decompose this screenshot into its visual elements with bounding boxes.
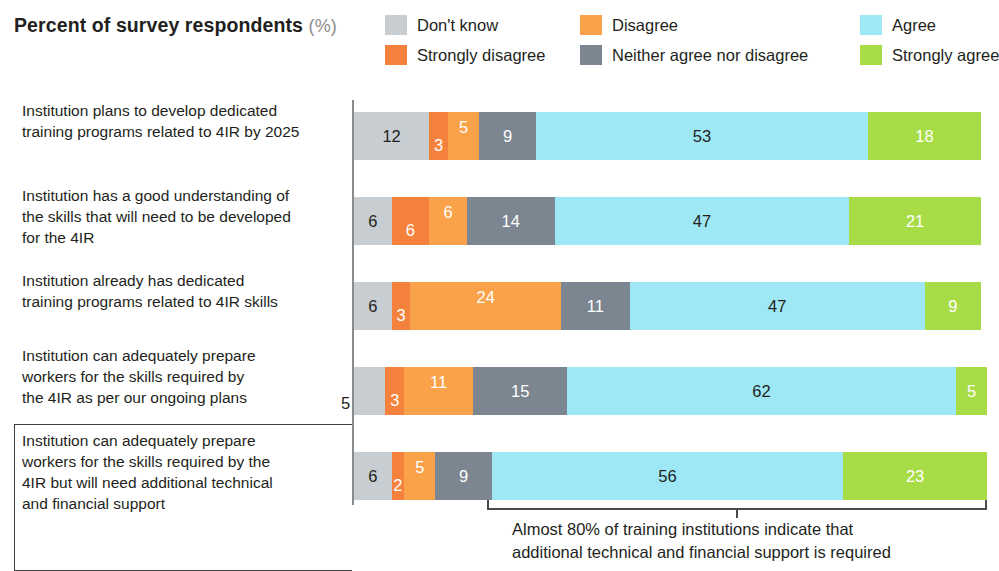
legend-item-neither: Neither agree nor disagree [580, 45, 808, 65]
bar-segment: 5 [448, 112, 479, 160]
bar-segment: 11 [561, 282, 630, 330]
bar-segment: 5 [956, 367, 987, 415]
legend-item-agree: Agree [860, 15, 936, 35]
bar-value-label: 5 [459, 119, 468, 136]
bar-value-label: 6 [368, 468, 377, 485]
highlight-box [14, 424, 352, 571]
category-label: Institution already has dedicatedtrainin… [22, 270, 342, 312]
bar-segment: 2 [392, 452, 405, 500]
category-label: Institution plans to develop dedicatedtr… [22, 100, 342, 142]
legend-label-dont-know: Don't know [417, 17, 498, 34]
bar-segment: 5 [354, 367, 385, 415]
annotation-line-1: Almost 80% of training institutions indi… [512, 518, 982, 541]
chart-header: Percent of survey respondents (%) Don't … [0, 0, 998, 92]
bar-value-label: 5 [415, 459, 424, 476]
bar-value-label: 18 [915, 128, 933, 145]
bar-value-label: 53 [693, 128, 711, 145]
legend-swatch-neither [580, 45, 602, 65]
bar-segment: 11 [404, 367, 473, 415]
bar-value-label: 14 [502, 213, 520, 230]
bar-segment: 47 [555, 197, 850, 245]
chart-title-unit: (%) [309, 16, 337, 36]
bar-segment: 3 [392, 282, 411, 330]
bracket-left-tick [487, 500, 489, 509]
bar-value-label: 47 [693, 213, 711, 230]
bar-segment: 6 [354, 197, 392, 245]
annotation-bracket [487, 500, 987, 516]
legend-item-strongly-disagree: Strongly disagree [385, 45, 545, 65]
annotation-text: Almost 80% of training institutions indi… [512, 518, 982, 564]
legend-label-disagree: Disagree [612, 17, 678, 34]
bar-segment: 9 [479, 112, 535, 160]
legend-swatch-agree [860, 15, 882, 35]
bar-value-label: 15 [511, 383, 529, 400]
bar-segment: 9 [925, 282, 981, 330]
category-label: Institution has a good understanding oft… [22, 185, 342, 248]
bar-value-label: 23 [906, 468, 924, 485]
bar-value-label: 2 [393, 477, 402, 494]
bar-value-label: 5 [967, 383, 976, 400]
bar-value-label: 9 [459, 468, 468, 485]
bar-segment: 15 [473, 367, 567, 415]
bar-value-label: 5 [341, 395, 350, 412]
bar-segment: 18 [868, 112, 981, 160]
bar-value-label: 6 [443, 204, 452, 221]
stacked-bar: 62595623 [354, 452, 987, 500]
annotation-line-2: additional technical and financial suppo… [512, 541, 982, 564]
bar-value-label: 47 [768, 298, 786, 315]
legend-label-strongly-agree: Strongly agree [892, 47, 999, 64]
bar-segment: 62 [567, 367, 956, 415]
bar-value-label: 12 [382, 128, 400, 145]
bar-value-label: 3 [434, 137, 443, 154]
bar-segment: 24 [410, 282, 560, 330]
bar-segment: 5 [404, 452, 435, 500]
bar-value-label: 21 [906, 213, 924, 230]
page-title: Percent of survey respondents (%) [14, 14, 337, 37]
bracket-right-tick [985, 500, 987, 509]
stacked-bar: 632411479 [354, 282, 981, 330]
legend-swatch-strongly-agree [860, 45, 882, 65]
bar-segment: 47 [630, 282, 925, 330]
bar-value-label: 9 [948, 298, 957, 315]
legend: Don't know Strongly disagree Disagree Ne… [385, 13, 990, 75]
legend-item-disagree: Disagree [580, 15, 678, 35]
legend-item-strongly-agree: Strongly agree [860, 45, 999, 65]
bar-segment: 9 [435, 452, 491, 500]
chart-title-text: Percent of survey respondents [14, 14, 303, 36]
bracket-center-tick [736, 509, 738, 518]
bar-value-label: 62 [752, 383, 770, 400]
bar-segment: 6 [392, 197, 430, 245]
bar-value-label: 6 [406, 222, 415, 239]
bar-value-label: 3 [396, 307, 405, 324]
bar-value-label: 6 [368, 213, 377, 230]
bar-value-label: 11 [430, 374, 447, 391]
bar-segment: 6 [429, 197, 467, 245]
legend-label-agree: Agree [892, 17, 936, 34]
legend-swatch-disagree [580, 15, 602, 35]
bar-segment: 3 [385, 367, 404, 415]
category-label: Institution can adequately prepareworker… [22, 345, 342, 408]
bar-value-label: 6 [368, 298, 377, 315]
bar-value-label: 9 [503, 128, 512, 145]
bar-segment: 12 [354, 112, 429, 160]
bar-value-label: 56 [658, 468, 676, 485]
legend-swatch-strongly-disagree [385, 45, 407, 65]
bar-value-label: 11 [587, 298, 604, 315]
legend-label-neither: Neither agree nor disagree [612, 47, 808, 64]
bar-value-label: 24 [476, 289, 494, 306]
stacked-bar: 123595318 [354, 112, 981, 160]
stacked-bar: 666144721 [354, 197, 981, 245]
bar-segment: 21 [849, 197, 981, 245]
bar-value-label: 3 [390, 392, 399, 409]
stacked-bar: 531115625 [354, 367, 987, 415]
bar-segment: 56 [492, 452, 843, 500]
bar-segment: 14 [467, 197, 555, 245]
legend-swatch-dont-know [385, 15, 407, 35]
bar-segment: 53 [536, 112, 868, 160]
bar-segment: 6 [354, 452, 392, 500]
bar-segment: 6 [354, 282, 392, 330]
legend-label-strongly-disagree: Strongly disagree [417, 47, 545, 64]
legend-item-dont-know: Don't know [385, 15, 498, 35]
bar-segment: 23 [843, 452, 987, 500]
bar-segment: 3 [429, 112, 448, 160]
